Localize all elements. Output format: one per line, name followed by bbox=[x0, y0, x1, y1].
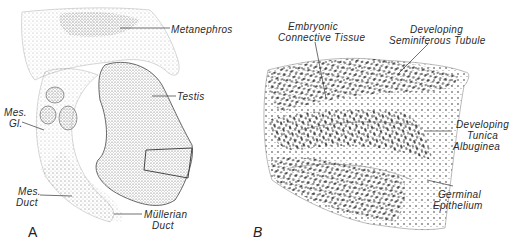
label-mes-gl-line1: Mes. bbox=[4, 107, 27, 118]
label-embryonic-line2: Connective Tissue bbox=[278, 32, 365, 43]
label-mullerian-line2: Duct bbox=[152, 220, 174, 231]
label-metanephros: Metanephros bbox=[171, 24, 233, 35]
label-germinal-line2: Epithelium bbox=[433, 200, 483, 211]
panel-letter-a: A bbox=[28, 224, 37, 240]
label-testis: Testis bbox=[177, 91, 205, 102]
label-mullerian-line1: Müllerian bbox=[144, 209, 187, 220]
label-embryonic-line1: Embryonic bbox=[288, 21, 338, 32]
histology-figure: Metanephros Testis Mes. Gl. Mes. Duct Mü… bbox=[0, 0, 519, 245]
panel-letter-b: B bbox=[253, 224, 262, 240]
label-seminiferous-line1: Developing bbox=[410, 24, 463, 35]
label-germinal-line1: Germinal bbox=[438, 189, 481, 200]
label-tunica-line3: Albuginea bbox=[453, 141, 500, 152]
label-mes-duct-line2: Duct bbox=[16, 197, 38, 208]
label-mes-duct-line1: Mes. bbox=[18, 186, 41, 197]
panel-a-drawing bbox=[22, 8, 193, 222]
label-tunica-line1: Developing bbox=[456, 119, 509, 130]
label-mes-gl-line2: Gl. bbox=[9, 118, 23, 129]
label-seminiferous-line2: Seminiferous Tubule bbox=[389, 35, 486, 46]
label-tunica-line2: Tunica bbox=[467, 130, 498, 141]
